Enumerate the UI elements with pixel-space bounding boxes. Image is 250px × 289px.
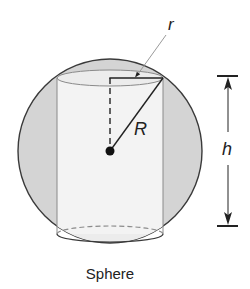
caption-sphere: Sphere — [86, 265, 134, 282]
r-leader-line — [138, 35, 166, 74]
label-R: R — [134, 119, 147, 139]
label-h: h — [222, 139, 232, 159]
label-r: r — [168, 15, 175, 34]
sphere-diagram: r R h Sphere — [0, 0, 250, 289]
center-point — [106, 147, 115, 156]
